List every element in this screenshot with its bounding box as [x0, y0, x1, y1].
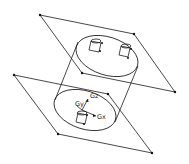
diagram-canvas: Gz Gy Gx — [0, 0, 189, 164]
label-gz: Gz — [90, 92, 99, 100]
coil-top-left — [89, 39, 103, 52]
coil-bottom — [76, 111, 88, 125]
coil-top-right — [119, 44, 132, 59]
label-gy: Gy — [75, 100, 84, 108]
upper-plane — [39, 14, 176, 93]
label-gx: Gx — [97, 113, 106, 121]
